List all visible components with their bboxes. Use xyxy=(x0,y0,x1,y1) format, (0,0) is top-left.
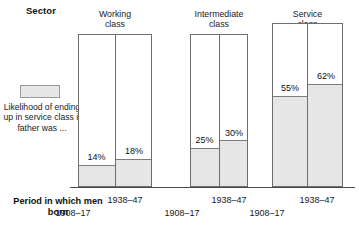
bar-frame-intermediate-class xyxy=(190,34,248,187)
bar-group-divider xyxy=(219,35,220,186)
bar-frame-service-class xyxy=(272,23,343,187)
bar-intermediate-class-1908-17[interactable] xyxy=(191,35,220,186)
bar-service-class-1908-17[interactable] xyxy=(273,24,309,186)
bar-working-class-1908-17[interactable] xyxy=(79,35,116,186)
page-title: Sector xyxy=(0,5,82,16)
bar-fill xyxy=(273,96,309,186)
chart-figure: Sector Likelihood of ending up in servic… xyxy=(0,0,359,225)
axis-baseline xyxy=(70,187,355,188)
bar-service-class-1938-47[interactable] xyxy=(307,24,342,186)
group-title-intermediate-class: Intermediate class xyxy=(178,9,260,29)
bar-fill xyxy=(79,165,116,186)
bar-value-working-class-1938-47: 18% xyxy=(116,146,152,156)
bar-group-working-class: Working class 14% 18% 1938–47 1908–17 xyxy=(78,0,152,225)
group-title-line2: class xyxy=(209,19,229,29)
bar-value-intermediate-class-1938-47: 30% xyxy=(220,128,248,138)
bar-value-service-class-1938-47: 62% xyxy=(309,71,343,81)
legend-swatch-icon xyxy=(20,85,60,98)
bar-group-service-class: Service class 55% 62% 1938–47 1908–17 xyxy=(272,0,343,225)
period-label-service-class-1908-17: 1908–17 xyxy=(230,208,304,218)
bar-group-divider xyxy=(115,35,116,186)
group-title-line1: Intermediate xyxy=(195,9,244,19)
bar-fill xyxy=(191,148,220,186)
bar-intermediate-class-1938-47[interactable] xyxy=(219,35,247,186)
bar-value-intermediate-class-1908-17: 25% xyxy=(190,135,219,145)
legend-description: Likelihood of ending up in service class… xyxy=(2,102,82,133)
bar-frame-working-class xyxy=(78,34,152,187)
bar-group-divider xyxy=(307,24,308,186)
period-label-intermediate-class-1938-47: 1938–47 xyxy=(192,195,266,205)
bar-working-class-1938-47[interactable] xyxy=(115,35,151,186)
bar-fill xyxy=(115,159,151,187)
group-title-line2: class xyxy=(105,19,125,29)
period-label-intermediate-class-1908-17: 1908–17 xyxy=(145,208,219,218)
axis-period-label: Period in which men born xyxy=(2,196,114,217)
bar-fill xyxy=(307,84,342,186)
group-title-line1: Working xyxy=(99,9,131,19)
group-title-line1: Service xyxy=(293,9,322,19)
bar-fill xyxy=(219,140,247,186)
group-title-working-class: Working class xyxy=(78,9,152,29)
bar-value-working-class-1908-17: 14% xyxy=(78,152,115,162)
period-label-service-class-1938-47: 1938–47 xyxy=(280,195,354,205)
bar-value-service-class-1908-17: 55% xyxy=(272,83,308,93)
bar-group-intermediate-class: Intermediate class 25% 30% 1938–47 1908–… xyxy=(190,0,248,225)
